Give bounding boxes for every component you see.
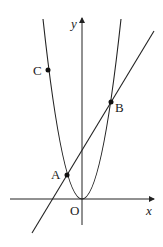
label-a: A [51,167,61,182]
label-origin: O [70,203,79,218]
label-b: B [115,100,124,115]
label-c: C [33,63,42,78]
point-c [46,68,51,73]
label-y-axis: y [69,16,77,31]
diagram-canvas: A B C O x y [0,0,163,247]
point-a [65,173,70,178]
point-b [109,100,114,105]
line-ab [32,31,154,233]
label-x-axis: x [145,203,152,218]
